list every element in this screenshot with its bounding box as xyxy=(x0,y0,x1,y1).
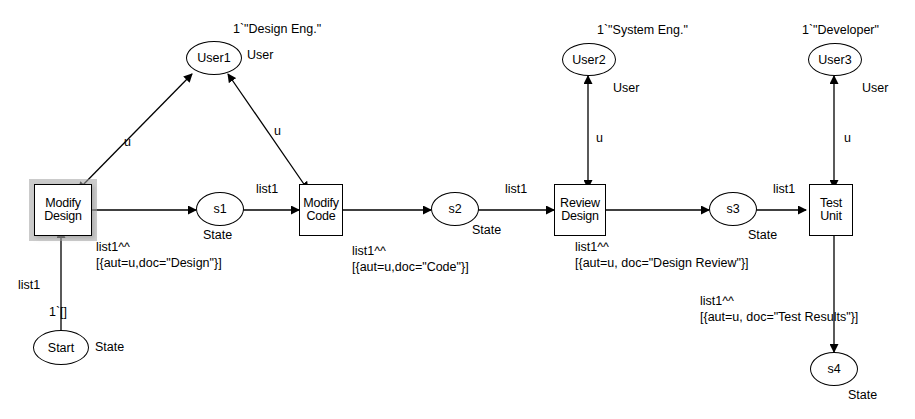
place-start-label: Start xyxy=(48,341,74,355)
place-user2-label: User2 xyxy=(572,53,605,67)
place-user3-colorset: User xyxy=(862,81,888,97)
arc-user1-modify-code xyxy=(228,74,308,190)
place-s1-label: s1 xyxy=(213,202,226,216)
place-s4[interactable]: s4 xyxy=(810,352,858,386)
arc-label-start-to-modify-design: list1 xyxy=(18,278,40,294)
transition-test-unit[interactable]: Test Unit xyxy=(809,184,853,236)
place-start-marking: 1`[] xyxy=(49,305,67,321)
transition-test-unit-line2: Unit xyxy=(820,210,841,223)
place-start[interactable]: Start xyxy=(33,330,89,365)
place-s1[interactable]: s1 xyxy=(196,192,244,226)
transition-modify-code[interactable]: Modify Code xyxy=(299,184,343,236)
arc-label-s2-to-review-design: list1 xyxy=(505,182,527,198)
arc-label-user3-arc: u xyxy=(844,131,851,147)
transition-review-design-line2: Design xyxy=(561,210,599,223)
place-user1[interactable]: User1 xyxy=(186,41,242,75)
place-user2-marking: 1`"System Eng." xyxy=(597,23,688,39)
arc-label-review-design-out: list1^^ [{aut=u, doc="Design Review"}] xyxy=(575,240,749,271)
place-s2-colorset: State xyxy=(472,223,501,239)
transition-modify-design[interactable]: Modify Design xyxy=(34,184,92,236)
arc-label-modify-design-out: list1^^ [{aut=u,doc="Design"}] xyxy=(96,240,222,271)
transition-modify-design-line2: Design xyxy=(44,210,82,223)
arc-label-user1-right: u xyxy=(274,124,281,140)
petri-net-diagram: User1 1`"Design Eng." User User2 1`"Syst… xyxy=(0,0,915,419)
place-start-colorset: State xyxy=(95,340,124,356)
place-s3-colorset: State xyxy=(748,228,777,244)
place-user1-label: User1 xyxy=(197,51,230,65)
transition-review-design[interactable]: Review Design xyxy=(554,184,606,236)
place-user3[interactable]: User3 xyxy=(808,43,862,76)
arc-label-s1-to-modify-code: list1 xyxy=(256,182,278,198)
arc-modify-design-user1 xyxy=(78,74,192,190)
place-s3[interactable]: s3 xyxy=(709,192,757,226)
place-user3-label: User3 xyxy=(818,53,851,67)
place-s4-colorset: State xyxy=(848,388,877,404)
place-s2-label: s2 xyxy=(448,202,461,216)
place-user2[interactable]: User2 xyxy=(562,43,616,76)
place-user3-marking: 1`"Developer" xyxy=(802,23,879,39)
arc-label-s3-to-test-unit: list1 xyxy=(773,182,795,198)
place-s3-label: s3 xyxy=(726,202,739,216)
place-user1-marking: 1`"Design Eng." xyxy=(233,22,321,38)
place-s4-label: s4 xyxy=(827,362,840,376)
place-user1-colorset: User xyxy=(247,48,273,64)
arc-label-user1-left: u xyxy=(124,135,131,151)
arc-label-test-unit-out: list1^^ [{aut=u, doc="Test Results"}] xyxy=(700,294,858,325)
arc-label-user2-arc: u xyxy=(596,131,603,147)
transition-modify-code-line2: Code xyxy=(306,210,335,223)
arc-label-modify-code-out: list1^^ [{aut=u,doc="Code"}] xyxy=(352,244,469,275)
place-s2[interactable]: s2 xyxy=(431,192,479,226)
place-user2-colorset: User xyxy=(613,81,639,97)
